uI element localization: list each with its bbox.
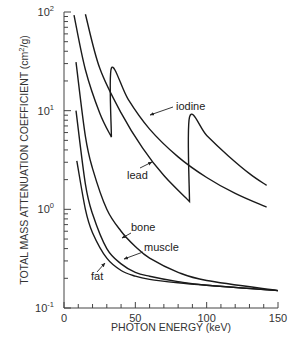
muscle-arrow-icon (124, 252, 143, 259)
curve-muscle (76, 111, 278, 291)
y-axis-title: TOTAL MASS ATTENUATION COEFFICIENT (cm2/… (17, 35, 30, 285)
iodine-arrow-icon (150, 107, 173, 115)
y-tick-label: 102 (38, 4, 54, 18)
lead-arrow-icon (140, 162, 152, 168)
x-tick-label: 150 (269, 312, 287, 324)
curve-fat (77, 161, 278, 291)
y-tick-label: 100 (38, 201, 54, 215)
curve-bone (76, 62, 278, 290)
y-tick-label: 101 (38, 103, 54, 117)
attenuation-chart: 05010015010-1100101102 iodineleadbonemus… (0, 0, 288, 343)
fat-label: fat (91, 270, 103, 282)
iodine-label: iodine (176, 100, 205, 112)
curve-iodine (74, 15, 267, 207)
x-tick-label: 0 (61, 312, 67, 324)
bone-label: bone (131, 221, 155, 233)
lead-label: lead (127, 169, 148, 181)
muscle-label: muscle (144, 241, 179, 253)
y-tick-label: 10-1 (35, 300, 54, 314)
chart-axes: 05010015010-1100101102 (35, 4, 287, 324)
x-axis-title: PHOTON ENERGY (keV) (111, 321, 231, 333)
